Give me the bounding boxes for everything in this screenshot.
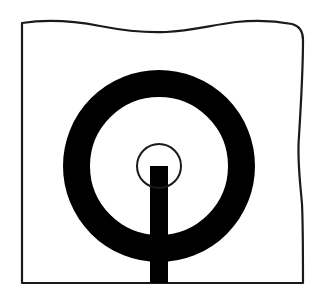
figure-canvas [0, 0, 325, 298]
figure-root [0, 0, 325, 298]
vertical-stem [150, 166, 168, 283]
